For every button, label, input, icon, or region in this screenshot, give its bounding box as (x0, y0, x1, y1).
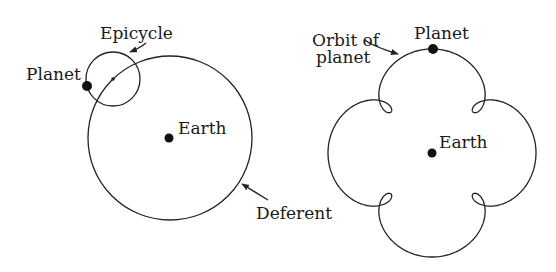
planet-dot (82, 81, 92, 91)
epicycle-label: Epicycle (100, 23, 173, 43)
orbit-label-line2: planet (316, 47, 370, 67)
orbit-earth-dot (428, 149, 437, 158)
orbit-planet-dot (428, 44, 438, 54)
epicycle-diagram: Epicycle Planet Earth Deferent Orbit of … (0, 0, 556, 272)
earth-label: Earth (178, 118, 227, 138)
orbit-planet-label: Planet (414, 23, 469, 43)
planet-label: Planet (26, 64, 81, 84)
right-figure: Orbit of planet Planet Earth (312, 23, 536, 257)
deferent-pointer-arrow (242, 184, 268, 200)
epicycle-pointer-arrow (130, 43, 146, 52)
orbit-earth-label: Earth (439, 132, 488, 152)
left-figure: Epicycle Planet Earth Deferent (26, 23, 332, 223)
epicycle-center-dot (111, 77, 115, 81)
earth-dot (165, 134, 174, 143)
deferent-label: Deferent (256, 203, 332, 223)
